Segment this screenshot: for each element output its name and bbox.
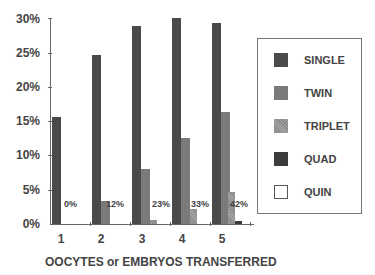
x-tick-label-2: 2	[91, 232, 111, 246]
bar-single-4	[172, 18, 181, 224]
y-tick-label-0: 0%	[0, 218, 40, 230]
y-tick-label-10: 10%	[0, 149, 40, 161]
legend-swatch-single	[274, 53, 288, 67]
x-tick-label-3: 3	[132, 232, 152, 246]
legend-label: QUAD	[304, 153, 336, 165]
bar-single-1	[52, 117, 61, 224]
y-tick-label-20: 20%	[0, 81, 40, 93]
x-axis	[50, 224, 254, 225]
bar-single-3	[132, 26, 141, 224]
bar-triplet-3	[150, 220, 157, 224]
bar-single-2	[92, 55, 101, 224]
legend-label: TRIPLET	[304, 120, 350, 132]
annotation-5: 42%	[230, 199, 248, 209]
x-tick	[130, 222, 131, 226]
x-axis-title: OOCYTES or EMBRYOS TRANSFERRED	[45, 255, 277, 269]
x-tick	[250, 222, 251, 226]
x-tick	[90, 222, 91, 226]
x-tick	[210, 222, 211, 226]
annotation-2: 12%	[106, 199, 124, 209]
x-tick-label-1: 1	[51, 232, 71, 246]
y-tick	[48, 18, 52, 19]
legend-label: SINGLE	[304, 54, 345, 66]
annotation-3: 23%	[152, 199, 170, 209]
bar-triplet-4	[190, 209, 197, 224]
y-tick	[48, 53, 52, 54]
y-tick-label-30: 30%	[0, 13, 40, 25]
legend-swatch-triplet	[274, 119, 288, 133]
x-tick-label-5: 5	[212, 232, 232, 246]
y-tick-label-5: 5%	[0, 184, 40, 196]
annotation-1: 0%	[64, 199, 77, 209]
legend-swatch-quin	[274, 185, 288, 199]
x-tick-label-4: 4	[172, 232, 192, 246]
bar-twin-4	[181, 138, 190, 224]
legend-swatch-quad	[274, 152, 288, 166]
bar-quad-5	[235, 221, 242, 224]
legend-swatch-twin	[274, 86, 288, 100]
x-tick	[170, 222, 171, 226]
bar-single-5	[212, 23, 221, 224]
y-tick	[48, 87, 52, 88]
y-tick-label-15: 15%	[0, 115, 40, 127]
y-tick-label-25: 25%	[0, 47, 40, 59]
legend-label: TWIN	[304, 87, 332, 99]
legend: SINGLE TWIN TRIPLET QUAD QUIN	[257, 38, 362, 214]
annotation-4: 33%	[191, 199, 209, 209]
bar-twin-3	[141, 169, 150, 224]
legend-label: QUIN	[304, 186, 332, 198]
